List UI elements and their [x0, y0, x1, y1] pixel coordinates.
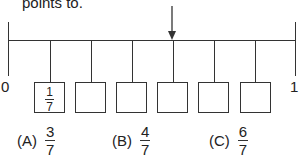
- fraction-box-3[interactable]: [116, 82, 147, 113]
- start-label: 0: [1, 78, 9, 95]
- fraction-box-6[interactable]: [240, 82, 271, 113]
- numerator: 6: [238, 124, 248, 141]
- numerator: 1: [45, 86, 54, 100]
- number-line-start-tick: [8, 22, 9, 76]
- choice-b[interactable]: (B) 4 7: [112, 124, 150, 157]
- tick-6: [255, 40, 256, 82]
- denominator: 7: [141, 141, 149, 157]
- choice-fraction: 4 7: [140, 124, 150, 157]
- fraction-box-1[interactable]: 1 7: [34, 82, 65, 113]
- tick-3: [132, 40, 133, 82]
- choice-fraction: 6 7: [238, 124, 248, 157]
- choice-fraction: 3 7: [45, 124, 55, 157]
- choice-label: (C): [209, 132, 230, 149]
- choice-a[interactable]: (A) 3 7: [17, 124, 55, 157]
- numerator: 4: [140, 124, 150, 141]
- tick-5: [214, 40, 215, 82]
- tick-4: [173, 40, 174, 82]
- tick-1: [50, 40, 51, 82]
- choice-label: (B): [112, 132, 132, 149]
- number-line-end-tick: [295, 22, 296, 76]
- denominator: 7: [239, 141, 247, 157]
- down-arrow-icon: [166, 4, 178, 42]
- tick-2: [91, 40, 92, 82]
- end-label: 1: [290, 78, 298, 95]
- number-line: [8, 40, 296, 41]
- denominator: 7: [46, 141, 54, 157]
- fraction: 1 7: [35, 86, 64, 113]
- denominator: 7: [46, 100, 53, 113]
- fraction-box-4[interactable]: [157, 82, 188, 113]
- fraction-box-5[interactable]: [198, 82, 229, 113]
- question-prompt-text: points to.: [22, 0, 83, 11]
- choice-c[interactable]: (C) 6 7: [209, 124, 248, 157]
- fraction-box-2[interactable]: [75, 82, 106, 113]
- choice-label: (A): [17, 132, 37, 149]
- numerator: 3: [45, 124, 55, 141]
